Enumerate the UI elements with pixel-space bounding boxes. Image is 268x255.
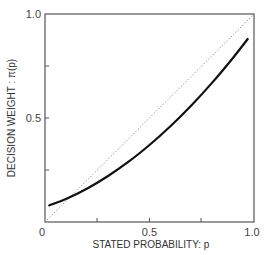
y-tick-label-05: 0.5 — [26, 112, 41, 124]
y-tick-label-1: 1.0 — [26, 8, 41, 20]
x-tick-label-1: 1.0 — [244, 226, 259, 238]
decision-weight-curve — [49, 39, 248, 205]
x-tick-label-05: 0.5 — [142, 226, 157, 238]
decision-weight-chart: 1.0 0.5 0 0.5 1.0 STATED PROBABILITY: p … — [0, 0, 268, 255]
y-axis-label: DECISION WEIGHT : π(p) — [6, 59, 17, 177]
x-axis-ticks — [97, 218, 201, 222]
x-tick-label-0: 0 — [39, 226, 45, 238]
x-axis-label: STATED PROBABILITY: p — [93, 239, 210, 250]
identity-diagonal-line — [45, 14, 254, 222]
